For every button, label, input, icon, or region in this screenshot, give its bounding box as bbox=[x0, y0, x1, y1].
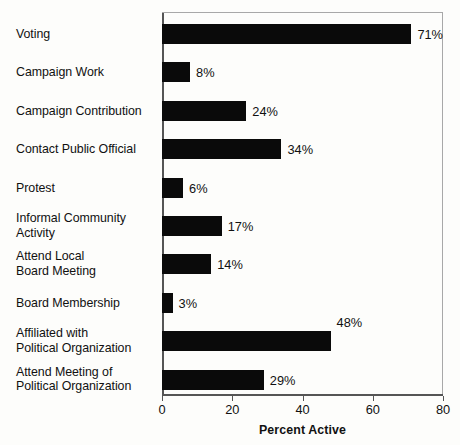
bar bbox=[162, 101, 246, 121]
bar-value-label: 71% bbox=[417, 27, 443, 42]
bar bbox=[162, 254, 211, 274]
bar bbox=[162, 62, 190, 82]
bar-value-label: 29% bbox=[270, 372, 296, 387]
x-tick-label: 0 bbox=[158, 402, 165, 417]
x-tick-label: 60 bbox=[366, 402, 380, 417]
category-label: Attend Local Board Meeting bbox=[16, 250, 162, 279]
bar-value-label: 14% bbox=[217, 257, 243, 272]
bar-value-label: 6% bbox=[189, 180, 208, 195]
x-axis: Percent Active 020406080 bbox=[162, 396, 443, 445]
bar bbox=[162, 370, 264, 390]
category-label: Campaign Work bbox=[16, 65, 162, 80]
bar bbox=[162, 293, 173, 313]
x-tick-mark bbox=[232, 396, 233, 401]
x-tick-mark bbox=[303, 396, 304, 401]
x-tick-label: 20 bbox=[225, 402, 239, 417]
bar bbox=[162, 139, 281, 159]
bar bbox=[162, 216, 222, 236]
x-tick-label: 40 bbox=[295, 402, 309, 417]
bar bbox=[162, 24, 411, 44]
x-axis-title: Percent Active bbox=[162, 423, 443, 437]
category-label: Attend Meeting of Political Organization bbox=[16, 365, 162, 394]
bar-value-label: 3% bbox=[179, 295, 198, 310]
category-label: Contact Public Official bbox=[16, 142, 162, 157]
category-label: Board Membership bbox=[16, 296, 162, 311]
category-label: Voting bbox=[16, 27, 162, 42]
bar-value-label: 17% bbox=[228, 219, 254, 234]
bar bbox=[162, 178, 183, 198]
bar-value-label: 34% bbox=[287, 142, 313, 157]
bar-value-label: 8% bbox=[196, 65, 215, 80]
category-label: Affiliated with Political Organization bbox=[16, 327, 162, 356]
category-label: Informal Community Activity bbox=[16, 211, 162, 240]
category-label: Protest bbox=[16, 180, 162, 195]
x-tick-mark bbox=[373, 396, 374, 401]
bar-value-label: 24% bbox=[252, 103, 278, 118]
bar-value-label: 48% bbox=[337, 315, 363, 330]
x-tick-mark bbox=[162, 396, 163, 401]
bar-chart: VotingCampaign WorkCampaign Contribution… bbox=[0, 0, 460, 445]
category-label: Campaign Contribution bbox=[16, 104, 162, 119]
x-tick-label: 80 bbox=[436, 402, 450, 417]
category-axis-labels: VotingCampaign WorkCampaign Contribution… bbox=[0, 0, 162, 445]
bar bbox=[162, 331, 331, 351]
x-tick-mark bbox=[443, 396, 444, 401]
bars-layer: 71%8%24%34%6%17%14%3%48%29% bbox=[162, 12, 443, 396]
